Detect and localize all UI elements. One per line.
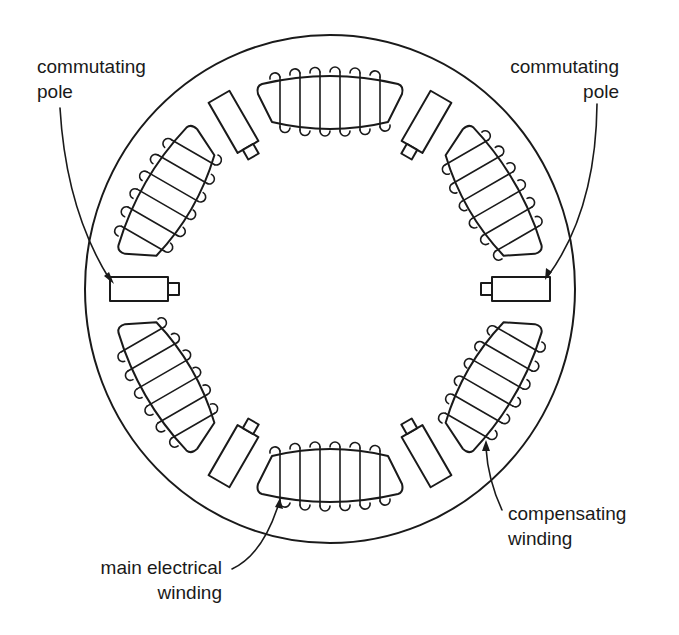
main-pole-upper-right — [426, 115, 558, 275]
label-line: commutating — [37, 54, 146, 79]
label-line: main electrical — [101, 555, 222, 580]
label-commutating-pole-left: commutating pole — [37, 54, 146, 104]
leader-main-electrical-winding — [232, 498, 283, 569]
leader-commutating-pole-right — [545, 104, 597, 280]
label-compensating-winding: compensating winding — [508, 501, 626, 551]
commutating-pole-1 — [396, 91, 451, 163]
main-pole-top — [258, 67, 403, 136]
label-line: compensating — [508, 501, 626, 526]
label-line: commutating — [510, 54, 619, 79]
commutating-pole-right — [481, 277, 550, 301]
leader-compensating-winding — [482, 440, 502, 510]
main-pole-upper-left — [101, 115, 233, 275]
commutating-pole-6 — [209, 91, 264, 163]
main-pole-lower-left — [101, 303, 233, 463]
main-pole-lower-right — [426, 303, 558, 463]
label-line: winding — [101, 580, 222, 605]
label-line: pole — [37, 79, 146, 104]
commutating-pole-3 — [396, 416, 451, 488]
label-line: pole — [510, 79, 619, 104]
commutating-pole-left — [110, 277, 179, 301]
commutating-pole-4 — [209, 416, 264, 488]
label-main-electrical-winding: main electrical winding — [101, 555, 222, 605]
label-line: winding — [508, 526, 626, 551]
label-commutating-pole-right: commutating pole — [510, 54, 619, 104]
